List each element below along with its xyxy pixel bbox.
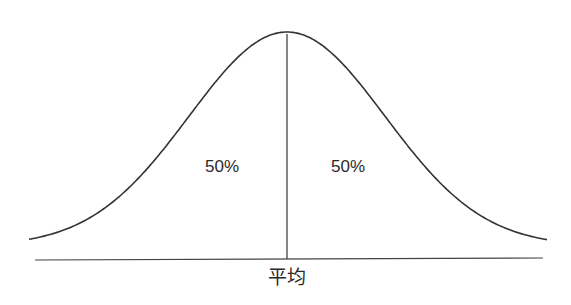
baseline-axis xyxy=(35,258,543,260)
right-area-label: 50% xyxy=(331,157,365,176)
mean-label: 平均 xyxy=(268,267,306,288)
left-area-label: 50% xyxy=(205,157,239,176)
normal-distribution-diagram: 50% 50% 平均 xyxy=(0,0,571,305)
bell-curve xyxy=(29,32,547,240)
